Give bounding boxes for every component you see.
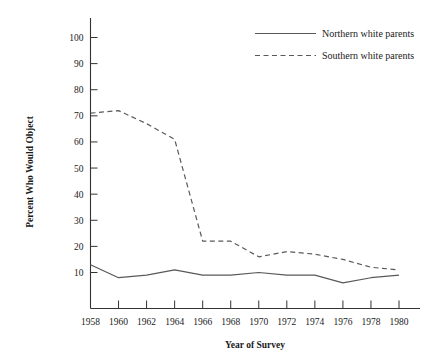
line-chart: 102030405060708090100 195819601962196419… <box>0 0 436 363</box>
chart-figure: 102030405060708090100 195819601962196419… <box>0 0 436 363</box>
x-tick-label: 1978 <box>361 317 380 327</box>
y-tick-label: 70 <box>74 111 84 121</box>
y-axis-title: Percent Who Would Object <box>25 115 35 227</box>
x-tick-label: 1968 <box>221 317 240 327</box>
x-tick-label: 1958 <box>81 317 100 327</box>
y-tick-label: 20 <box>74 242 84 252</box>
y-tick-label: 90 <box>74 59 84 69</box>
series-line-northern-white-parents <box>91 265 400 283</box>
x-tick-label: 1962 <box>137 317 156 327</box>
x-tick-label: 1974 <box>305 317 324 327</box>
x-tick-label: 1966 <box>193 317 212 327</box>
y-tick-label: 80 <box>74 85 84 95</box>
y-axis: 102030405060708090100 <box>69 18 97 308</box>
x-axis-title: Year of Survey <box>225 340 285 350</box>
x-tick-label: 1976 <box>333 317 352 327</box>
plot-series-group <box>91 111 400 283</box>
x-axis-tick-labels: 1958196019621964196619681970197219741976… <box>81 317 409 327</box>
legend-label-southern: Southern white parents <box>322 50 414 61</box>
y-tick-label: 10 <box>74 268 84 278</box>
y-tick-label: 100 <box>69 33 84 43</box>
y-axis-title-group: Percent Who Would Object <box>25 115 35 227</box>
x-axis: 1958196019621964196619681970197219741976… <box>81 301 420 327</box>
y-tick-label: 30 <box>74 216 84 226</box>
x-tick-label: 1964 <box>165 317 184 327</box>
y-axis-ticks <box>91 38 98 273</box>
legend-label-northern: Northern white parents <box>322 28 414 39</box>
x-tick-label: 1980 <box>390 317 409 327</box>
y-tick-label: 40 <box>74 190 84 200</box>
y-tick-label: 60 <box>74 137 84 147</box>
series-line-southern-white-parents <box>91 111 400 270</box>
x-tick-label: 1970 <box>249 317 268 327</box>
x-axis-title-group: Year of Survey <box>225 340 285 350</box>
chart-legend: Northern white parents Southern white pa… <box>255 28 414 61</box>
x-tick-label: 1972 <box>277 317 296 327</box>
y-tick-label: 50 <box>74 164 84 174</box>
y-axis-tick-labels: 102030405060708090100 <box>69 33 84 278</box>
x-axis-ticks <box>91 301 400 309</box>
x-tick-label: 1960 <box>109 317 128 327</box>
